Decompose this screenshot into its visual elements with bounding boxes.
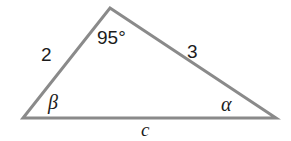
triangle-shape [23,8,276,118]
triangle-figure: 95° 2 3 β α c [0,0,291,141]
bottom-side-length-label: c [141,120,149,139]
apex-angle-label: 95° [97,28,126,47]
right-side-length-label: 3 [187,42,198,61]
bottom-right-angle-label: α [221,94,232,114]
left-side-length-label: 2 [41,45,52,64]
bottom-left-angle-label: β [48,92,58,112]
